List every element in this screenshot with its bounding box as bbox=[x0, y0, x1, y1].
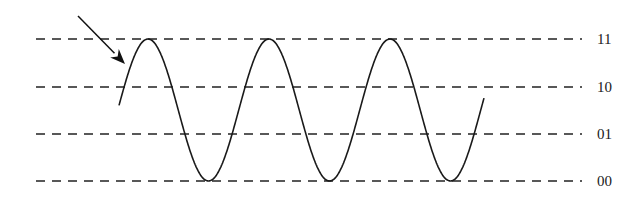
quantization-diagram: 11100100 bbox=[0, 0, 644, 200]
arrow-shaft bbox=[78, 16, 115, 53]
level-label-01: 01 bbox=[597, 126, 612, 142]
level-labels: 11100100 bbox=[597, 31, 612, 189]
level-label-00: 00 bbox=[597, 173, 612, 189]
level-label-11: 11 bbox=[597, 31, 611, 47]
arrow-pointer bbox=[78, 16, 125, 64]
level-label-10: 10 bbox=[597, 79, 612, 95]
sine-wave-signal bbox=[119, 39, 484, 181]
